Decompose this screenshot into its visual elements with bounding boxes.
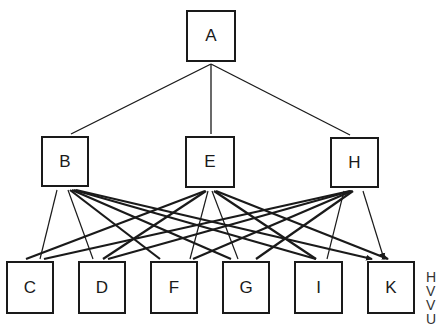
node-label: K	[385, 278, 396, 298]
node-label: C	[24, 278, 36, 298]
edge-B-G	[72, 190, 231, 259]
edge-A-B	[71, 64, 211, 134]
tree-edges	[71, 64, 350, 135]
node-K: K	[367, 261, 415, 314]
node-label: D	[96, 278, 108, 298]
node-F: F	[150, 261, 198, 314]
node-label: H	[348, 153, 360, 173]
node-E: E	[185, 136, 235, 188]
node-label: E	[204, 152, 215, 172]
node-C: C	[6, 261, 54, 314]
node-label: I	[316, 278, 321, 298]
side-text-line: V	[426, 284, 436, 298]
node-B: B	[41, 136, 89, 187]
node-label: B	[59, 152, 70, 172]
cross-edges	[26, 190, 388, 259]
side-text-line: V	[426, 298, 436, 312]
node-label: F	[169, 278, 179, 298]
node-label: G	[239, 278, 252, 298]
node-G: G	[222, 261, 270, 314]
truncated-side-text: H V V U	[426, 270, 436, 326]
side-text-line: U	[426, 312, 436, 326]
node-H: H	[330, 137, 379, 188]
side-text-line: H	[426, 270, 436, 284]
edge-A-H	[211, 64, 350, 135]
node-I: I	[294, 261, 343, 314]
node-label: A	[205, 26, 216, 46]
node-D: D	[78, 261, 126, 314]
node-A: A	[186, 10, 236, 62]
edge-H-K	[363, 191, 384, 259]
